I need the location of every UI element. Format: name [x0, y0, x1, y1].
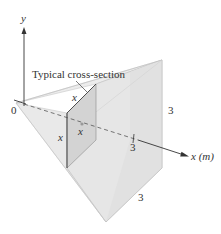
cross-section-top-label: x: [71, 91, 77, 103]
y-axis-label: y: [20, 12, 26, 24]
right-edge-label: 3: [168, 104, 174, 116]
bottom-edge-label: 3: [138, 191, 144, 203]
solid-diagram: y 0 Typical cross-section x x x 3 x (m) …: [0, 0, 221, 234]
cross-section-position-label: x: [77, 125, 83, 137]
x-tick-label: 3: [130, 141, 136, 153]
x-axis-label: x (m): [190, 150, 214, 163]
cross-section-side-label: x: [57, 131, 63, 143]
x-axis-arrow-icon: [180, 152, 189, 157]
origin-label: 0: [11, 104, 17, 116]
callout-label: Typical cross-section: [32, 68, 126, 80]
y-axis-arrow-icon: [22, 27, 27, 34]
